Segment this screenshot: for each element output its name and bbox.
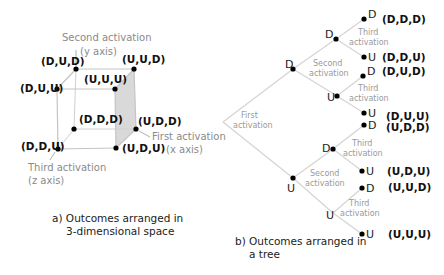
z-axis-label-line2: (z axis) [28,175,64,186]
vertex-label-ddd: (D,D,D) [79,113,123,125]
x-axis-label-line1: First activation [152,131,226,142]
panel-b-caption-line1: b) Outcomes arranged in [235,235,367,247]
vertex-label-duu: (D,U,U) [20,82,63,94]
diagram-canvas: (D,U,D) (U,U,D) (D,U,U) (U,U,U) (D,D,D) … [0,0,444,275]
x-axis-label-line2: (x axis) [166,144,203,155]
third-activation-3-line2: activation [343,149,383,158]
third-activation-4-line1: Third [348,199,369,208]
vertex-label-ddu: (D,D,U) [21,140,65,152]
leaf-outcome-3: (D,U,D) [382,65,426,77]
third-activation-3-line1: Third [351,139,372,148]
first-activation-line1: First [241,111,258,120]
vertex-label-uuu: (U,U,U) [84,73,127,85]
tree-node-l2-ud: D [322,142,330,155]
tree-node-l1-u: U [287,182,295,195]
third-activation-2-line1: Third [357,84,378,93]
vertex-label-dud: (D,U,D) [41,55,85,67]
leaf-node-3: D [367,65,375,78]
leaf-outcome-8: (U,U,U) [388,228,431,240]
z-axis-label-line1: Third activation [27,162,106,173]
leaf-outcome-1: (D,D,D) [382,13,426,25]
second-activation-upper-line1: Second [313,59,342,68]
leaf-node-2: U [368,51,376,64]
panel-b-tree: D U D U D U D U D U D U D U (D,D,D) (D,D… [223,8,431,260]
leaf-outcome-2: (D,D,U) [382,51,426,63]
third-activation-4-line2: activation [340,209,380,218]
vertex-label-udd: (U,D,D) [138,115,182,127]
tree-node-l2-uu: U [326,209,334,222]
third-activation-1-line1: Third [357,28,378,37]
second-activation-lower-line1: Second [310,169,339,178]
panel-b-caption-line2: a tree [249,248,280,260]
vertex-label-udu: (U,D,U) [122,142,165,154]
panel-a-caption-line1: a) Outcomes arranged in [52,212,183,224]
tree-node-l1-d: D [285,58,293,71]
leaf-node-8: U [366,228,374,241]
third-activation-1-line2: activation [349,38,389,47]
panel-a-cube: (D,U,D) (U,U,D) (D,U,U) (U,U,U) (D,D,D) … [20,32,226,237]
y-axis-label-line1: Second activation [62,32,152,43]
second-activation-lower-line2: activation [305,179,345,188]
first-activation-line2: activation [233,121,273,130]
leaf-outcome-6: (U,D,U) [387,165,430,177]
tree-node-l2-dd: D [325,28,333,41]
y-axis-label-line2: (y axis) [80,46,117,57]
leaf-node-5: D [368,119,376,132]
vertex-label-uud: (U,U,D) [122,53,165,65]
leaf-node-6: U [366,165,374,178]
tree-node-l2-du: U [327,91,335,104]
leaf-node-1: D [368,8,376,21]
panel-a-caption-line2: 3-dimensional space [66,225,174,237]
second-activation-upper-line2: activation [309,69,349,78]
leaf-outcome-7: (U,U,D) [388,181,431,193]
third-activation-2-line2: activation [349,94,389,103]
leaf-node-7: D [366,182,374,195]
leaf-outcome-5: (U,D,D) [386,121,430,133]
